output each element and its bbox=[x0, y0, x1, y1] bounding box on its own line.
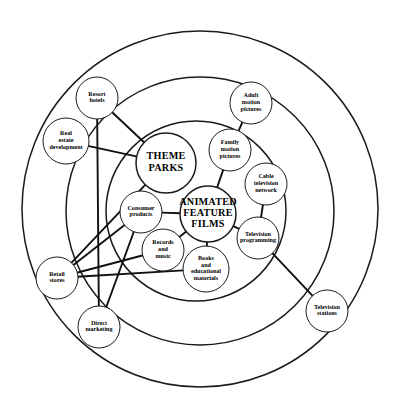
node-label-television-stations: Televisionstations bbox=[314, 304, 340, 317]
node-label-consumer-products: Consumerproducts bbox=[127, 205, 154, 218]
link-resort-hotels-to-direct-marketing bbox=[97, 118, 99, 306]
node-animated-feature-films[interactable]: ANIMATEDFEATUREFILMS bbox=[179, 186, 236, 242]
node-label-retail-stores: Retailstores bbox=[49, 271, 65, 284]
node-records-and-music[interactable]: Recordsandmusic bbox=[142, 229, 184, 271]
link-real-estate-development-to-theme-parks bbox=[88, 146, 137, 157]
node-direct-marketing[interactable]: Directmarketing bbox=[78, 306, 120, 348]
node-resort-hotels[interactable]: Resorthotels bbox=[76, 77, 118, 119]
link-cable-television-network-to-television-programming bbox=[261, 204, 263, 217]
node-books-and-educational-materials[interactable]: Booksandeducationalmaterials bbox=[183, 246, 229, 292]
node-consumer-products[interactable]: Consumerproducts bbox=[120, 191, 162, 233]
link-resort-hotels-to-theme-parks bbox=[112, 112, 145, 143]
link-retail-stores-to-records-and-music bbox=[77, 255, 143, 273]
node-family-motion-pictures[interactable]: Familymotionpictures bbox=[209, 129, 251, 171]
link-television-programming-to-television-stations bbox=[272, 253, 313, 296]
node-label-resort-hotels: Resorthotels bbox=[88, 91, 105, 104]
link-consumer-products-to-direct-marketing bbox=[106, 231, 134, 307]
link-records-and-music-to-animated-feature-films bbox=[179, 231, 187, 237]
diagram-canvas: ResorthotelsRealestatedevelopmentAdultmo… bbox=[0, 0, 402, 417]
link-retail-stores-to-books-and-educational-materials bbox=[77, 270, 183, 276]
node-television-stations[interactable]: Televisionstations bbox=[306, 290, 348, 332]
concentric-relationship-diagram: ResorthotelsRealestatedevelopmentAdultmo… bbox=[0, 0, 402, 417]
node-real-estate-development[interactable]: Realestatedevelopment bbox=[43, 118, 89, 164]
link-family-motion-pictures-to-animated-feature-films bbox=[217, 169, 223, 188]
link-adult-motion-pictures-to-family-motion-pictures bbox=[238, 122, 242, 132]
node-television-programming[interactable]: Televisionprogramming bbox=[237, 217, 279, 259]
node-cable-television-network[interactable]: Cabletelevisionnetwork bbox=[245, 163, 287, 205]
node-theme-parks[interactable]: THEMEPARKS bbox=[136, 133, 196, 193]
link-consumer-products-to-animated-feature-films bbox=[161, 213, 180, 214]
node-label-theme-parks: THEMEPARKS bbox=[147, 151, 186, 173]
nodes-layer: ResorthotelsRealestatedevelopmentAdultmo… bbox=[36, 77, 348, 348]
node-label-television-programming: Televisionprogramming bbox=[240, 231, 276, 244]
node-label-family-motion-pictures: Familymotionpictures bbox=[220, 140, 242, 160]
node-retail-stores[interactable]: Retailstores bbox=[36, 257, 78, 299]
node-adult-motion-pictures[interactable]: Adultmotionpictures bbox=[230, 82, 272, 124]
